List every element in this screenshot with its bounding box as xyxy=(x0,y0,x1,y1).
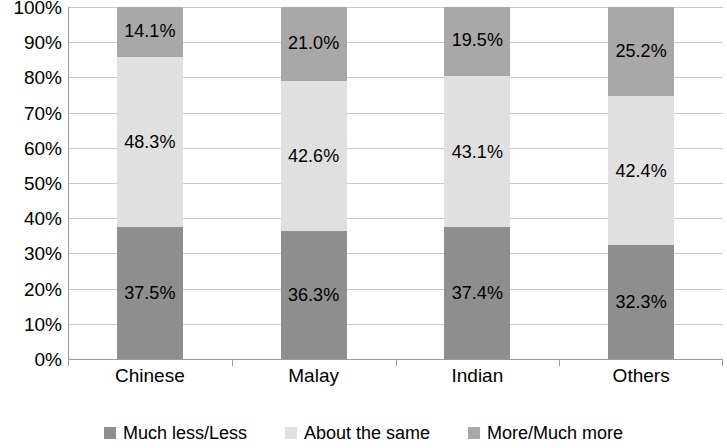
bar-stack: 36.3%42.6%21.0% xyxy=(281,7,347,359)
x-axis-tick-mark xyxy=(396,359,397,366)
bar-stack: 32.3%42.4%25.2% xyxy=(608,7,674,359)
stacked-bar-chart: 100%90%80%70%60%50%40%30%20%10%0% 37.5%4… xyxy=(0,0,727,448)
bar-value-label: 14.1% xyxy=(124,22,175,40)
x-axis-tick-mark xyxy=(68,359,69,366)
bar-segment: 42.6% xyxy=(281,81,347,231)
bar-group: 36.3%42.6%21.0% xyxy=(281,7,347,359)
chart-legend: Much less/LessAbout the sameMore/Much mo… xyxy=(0,417,727,448)
bar-value-label: 32.3% xyxy=(616,293,667,311)
bar-value-label: 37.4% xyxy=(452,284,503,302)
bar-stack: 37.5%48.3%14.1% xyxy=(117,7,183,359)
y-axis-tick-label: 10% xyxy=(0,314,62,333)
x-axis-category-label: Chinese xyxy=(70,366,230,387)
bar-value-label: 25.2% xyxy=(616,42,667,60)
bar-segment: 25.2% xyxy=(608,7,674,96)
plot-area: 37.5%48.3%14.1%36.3%42.6%21.0%37.4%43.1%… xyxy=(68,7,723,359)
bar-value-label: 48.3% xyxy=(124,133,175,151)
bar-value-label: 42.6% xyxy=(288,147,339,165)
bar-segment: 21.0% xyxy=(281,7,347,81)
legend-swatch-icon xyxy=(285,427,297,439)
x-axis-tick-mark xyxy=(559,359,560,366)
bar-segment: 19.5% xyxy=(444,7,510,76)
legend-item[interactable]: About the same xyxy=(285,424,430,442)
bar-segment: 48.3% xyxy=(117,57,183,227)
legend-label: About the same xyxy=(304,424,430,442)
x-axis-tick-mark xyxy=(722,359,723,366)
bar-segment: 36.3% xyxy=(281,231,347,359)
legend-label: Much less/Less xyxy=(123,424,247,442)
y-axis-tick-label: 50% xyxy=(0,174,62,193)
y-axis-tick-label: 40% xyxy=(0,209,62,228)
bar-group: 37.5%48.3%14.1% xyxy=(117,7,183,359)
x-axis-category-label: Indian xyxy=(397,366,557,387)
bar-stack: 37.4%43.1%19.5% xyxy=(444,7,510,359)
y-axis-tick-label: 100% xyxy=(0,0,62,17)
y-axis-tick-label: 20% xyxy=(0,279,62,298)
legend-swatch-icon xyxy=(468,427,480,439)
bar-value-label: 21.0% xyxy=(288,34,339,52)
y-axis: 100%90%80%70%60%50%40%30%20%10%0% xyxy=(0,7,62,359)
legend-label: More/Much more xyxy=(487,424,623,442)
bar-segment: 14.1% xyxy=(117,7,183,57)
bar-group: 32.3%42.4%25.2% xyxy=(608,7,674,359)
bar-segment: 42.4% xyxy=(608,96,674,245)
x-axis-category-label: Malay xyxy=(234,366,394,387)
bar-segment: 37.5% xyxy=(117,227,183,359)
y-axis-tick-label: 90% xyxy=(0,33,62,52)
y-axis-tick-label: 30% xyxy=(0,244,62,263)
y-axis-tick-label: 0% xyxy=(0,350,62,369)
bar-value-label: 36.3% xyxy=(288,286,339,304)
bar-segment: 37.4% xyxy=(444,227,510,359)
x-axis-category-label: Others xyxy=(561,366,721,387)
x-axis-tick-mark xyxy=(232,359,233,366)
bar-segment: 32.3% xyxy=(608,245,674,359)
bar-value-label: 42.4% xyxy=(616,162,667,180)
y-axis-tick-label: 60% xyxy=(0,138,62,157)
bar-value-label: 37.5% xyxy=(124,284,175,302)
x-axis: ChineseMalayIndianOthers xyxy=(68,366,723,398)
legend-item[interactable]: Much less/Less xyxy=(104,424,247,442)
legend-item[interactable]: More/Much more xyxy=(468,424,623,442)
bar-value-label: 19.5% xyxy=(452,31,503,49)
bar-group: 37.4%43.1%19.5% xyxy=(444,7,510,359)
y-axis-tick-label: 70% xyxy=(0,103,62,122)
bar-segment: 43.1% xyxy=(444,76,510,228)
y-axis-line xyxy=(68,7,69,360)
y-axis-tick-label: 80% xyxy=(0,68,62,87)
bar-value-label: 43.1% xyxy=(452,143,503,161)
legend-swatch-icon xyxy=(104,427,116,439)
